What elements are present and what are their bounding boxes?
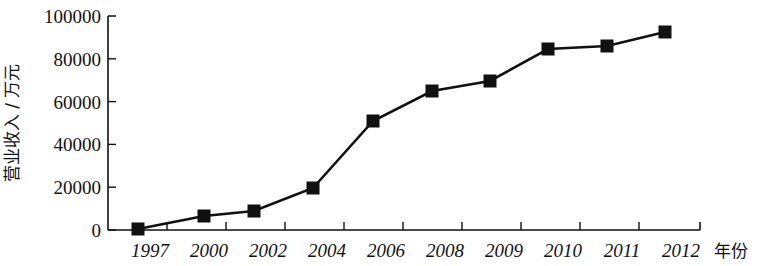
series-line-operating-income [138, 32, 665, 229]
y-tick-label-100000: 100000 [44, 6, 101, 27]
x-tick-label-2012: 2012 [662, 240, 701, 261]
x-tick-label-2000: 2000 [190, 240, 229, 261]
data-point-2009 [484, 75, 496, 87]
data-point-2008 [426, 85, 438, 97]
chart-canvas: 0 20000 40000 60000 80000 100000 1997 20… [0, 0, 762, 266]
data-point-2011 [601, 40, 613, 52]
x-tick-label-2004: 2004 [308, 240, 347, 261]
y-tick-label-60000: 60000 [54, 92, 102, 113]
y-tick-label-20000: 20000 [54, 177, 102, 198]
x-tick-label-2006: 2006 [367, 240, 406, 261]
data-point-2002 [248, 205, 260, 217]
y-tick-label-0: 0 [92, 220, 102, 241]
x-tick-label-2009: 2009 [485, 240, 524, 261]
x-tick-label-2010: 2010 [544, 240, 583, 261]
x-axis-line [108, 222, 700, 230]
y-tick-label-40000: 40000 [54, 134, 102, 155]
x-axis-title: 年份 [714, 241, 748, 261]
line-chart: 0 20000 40000 60000 80000 100000 1997 20… [0, 0, 762, 266]
data-point-2000 [198, 210, 210, 222]
data-point-2004 [307, 182, 319, 194]
x-tick-label-2002: 2002 [249, 240, 288, 261]
data-point-1997 [132, 223, 144, 235]
x-tick-label-2011: 2011 [604, 240, 641, 261]
x-tick-label-2008: 2008 [426, 240, 465, 261]
y-tick-label-80000: 80000 [54, 49, 102, 70]
y-axis-title: 营业收入 / 万元 [2, 64, 22, 183]
data-point-2010 [542, 43, 554, 55]
data-point-2006 [367, 115, 379, 127]
y-axis-line [108, 16, 116, 230]
x-tick-label-1997: 1997 [131, 240, 171, 261]
data-point-2012 [659, 26, 671, 38]
